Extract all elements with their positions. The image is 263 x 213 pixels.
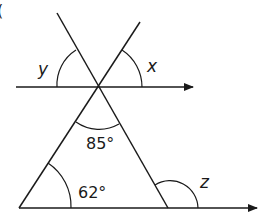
angle-x-label: x	[146, 56, 158, 76]
angle-62-arc	[48, 163, 71, 208]
angle-z-arc	[155, 181, 198, 208]
transversal-left-to-right	[57, 13, 168, 208]
angle-z-label: z	[199, 172, 210, 192]
angle-85-arc	[76, 122, 119, 129]
transversal-right-to-left	[19, 22, 140, 208]
angle-x-arc	[122, 50, 142, 87]
angle-y-label: y	[37, 59, 49, 79]
geometry-diagram: ( y x 85° 62° z	[0, 0, 263, 213]
angle-y-arc	[57, 50, 76, 87]
angle-85-label: 85°	[86, 134, 114, 153]
question-marker: (	[0, 1, 3, 20]
angle-62-label: 62°	[78, 183, 106, 202]
